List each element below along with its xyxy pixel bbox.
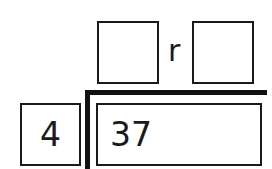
division-bracket-vertical-bar: [85, 90, 90, 169]
division-bracket-top-bar: [85, 90, 267, 95]
remainder-answer-box[interactable]: [192, 21, 254, 84]
divisor-box: 4: [20, 103, 81, 166]
divisor-value: 4: [40, 118, 61, 151]
dividend-box: 37: [96, 103, 262, 166]
remainder-label: r: [168, 36, 180, 66]
dividend-value: 37: [110, 118, 152, 151]
quotient-answer-box[interactable]: [97, 21, 159, 84]
